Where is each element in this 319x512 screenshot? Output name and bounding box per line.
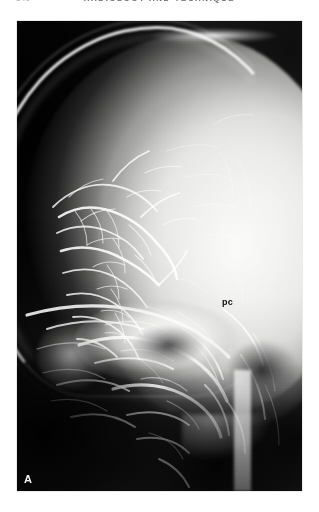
neck-soft-tissue [182,414,302,491]
page-header: 340 RADIOLOGY AND TECHNIQUE [0,0,319,6]
radiograph-figure: pc A [17,21,302,491]
annotation-pc: pc [222,297,233,307]
sella-turcica [131,325,205,365]
figure-panel-label: A [24,473,32,485]
skull-base-region [17,289,302,491]
running-title: RADIOLOGY AND TECHNIQUE [0,0,319,4]
